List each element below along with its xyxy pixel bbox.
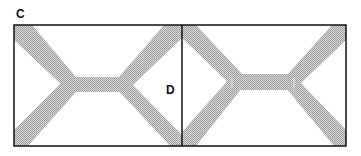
label-d: D <box>166 83 175 97</box>
right-panel-bands <box>182 25 346 146</box>
diagram-canvas <box>0 0 361 156</box>
left-panel-bands <box>14 25 182 146</box>
label-c: C <box>16 7 25 21</box>
